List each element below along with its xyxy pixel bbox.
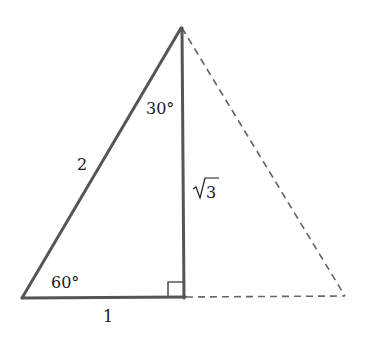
long-leg-side bbox=[182, 28, 184, 298]
short-leg-label: 1 bbox=[103, 307, 113, 326]
long-leg-label: 3 bbox=[193, 178, 219, 202]
triangle-diagram: 30° 2 60° 1 3 bbox=[0, 0, 367, 340]
bottom-angle-label: 60° bbox=[51, 273, 79, 292]
hypotenuse-side bbox=[22, 28, 181, 298]
long-leg-value: 3 bbox=[206, 183, 216, 202]
short-leg-side bbox=[22, 297, 185, 298]
dashed-mirror-base bbox=[186, 296, 345, 297]
right-angle-marker bbox=[168, 282, 183, 297]
dashed-mirror-hypotenuse bbox=[182, 28, 345, 296]
top-angle-label: 30° bbox=[146, 99, 174, 118]
hypotenuse-label: 2 bbox=[77, 155, 87, 174]
